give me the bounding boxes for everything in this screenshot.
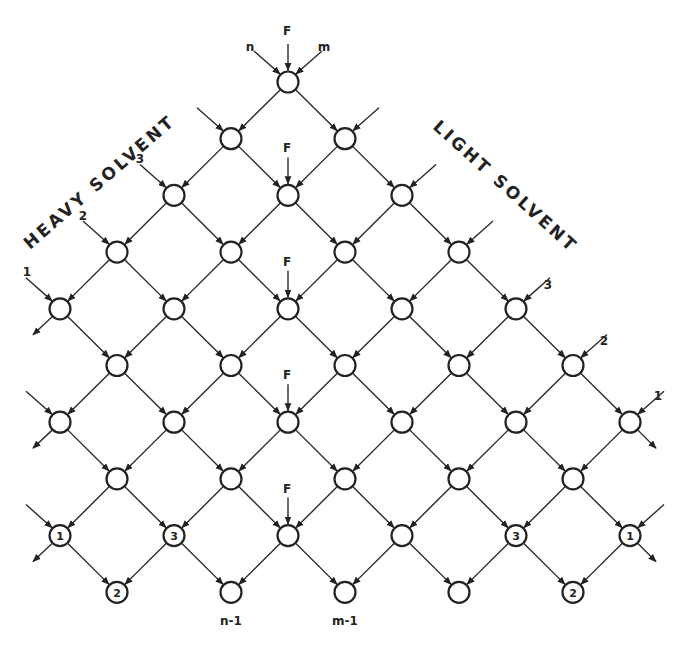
feed-label: F <box>283 368 291 382</box>
stage-node <box>392 525 413 546</box>
heavy-solvent-inlet-arrow <box>26 505 52 528</box>
stage-number-label: 2 <box>569 587 577 600</box>
stream-arrow <box>239 544 280 585</box>
stream-arrow <box>296 203 337 244</box>
stream-arrow <box>68 260 109 301</box>
stream-arrow <box>353 487 394 528</box>
stage-node <box>221 242 242 263</box>
light-solvent-inlet-arrow <box>638 505 664 528</box>
stage-node <box>221 582 242 603</box>
stage-node <box>221 128 242 149</box>
stream-arrow <box>125 203 166 244</box>
stage-number-label: 2 <box>113 587 121 600</box>
stream-arrow <box>239 430 280 471</box>
stage-node <box>278 298 299 319</box>
stream-arrow <box>296 373 337 414</box>
stream-arrow <box>467 430 508 471</box>
left-feed-2-label: 2 <box>79 209 87 223</box>
stream-arrow <box>467 317 508 358</box>
stage-number-label: 3 <box>512 530 520 543</box>
stream-arrow <box>182 147 223 188</box>
bottom-m-minus-1-label: m-1 <box>332 614 358 628</box>
stream-arrow <box>524 487 565 528</box>
stream-arrow <box>524 317 565 358</box>
stream-arrow <box>467 260 508 301</box>
stage-node <box>506 412 527 433</box>
light-solvent-inlet-arrow <box>467 221 493 244</box>
heavy-solvent-inlet-arrow <box>197 108 223 131</box>
stage-node <box>449 582 470 603</box>
stream-arrow <box>182 203 223 244</box>
stream-arrow <box>68 373 109 414</box>
stream-arrow <box>410 317 451 358</box>
stream-arrow <box>581 487 622 528</box>
stream-arrow <box>125 260 166 301</box>
stage-node <box>449 242 470 263</box>
stage-node <box>278 185 299 206</box>
stream-arrow <box>182 544 223 585</box>
stage-node <box>278 72 299 93</box>
stream-arrow <box>239 373 280 414</box>
stream-arrow <box>296 90 337 131</box>
heavy-solvent-inlet-arrow <box>254 51 280 74</box>
feed-label: F <box>283 482 291 496</box>
labels: HEAVY SOLVENT LIGHT SOLVENT F n m n-1 m-… <box>20 24 663 628</box>
bottom-n-minus-1-label: n-1 <box>220 614 242 628</box>
stream-arrow <box>524 430 565 471</box>
stream-arrow <box>68 487 109 528</box>
stream-arrow <box>125 430 166 471</box>
heavy-solvent-outlet-arrow <box>33 430 52 448</box>
stream-arrow <box>353 373 394 414</box>
feed-label: F <box>283 141 291 155</box>
heavy-solvent-label: HEAVY SOLVENT <box>20 111 180 253</box>
heavy-solvent-outlet-arrow <box>33 544 52 562</box>
stream-arrow <box>239 260 280 301</box>
left-feed-1-label: 1 <box>23 265 31 279</box>
stage-node <box>392 298 413 319</box>
stream-arrow <box>410 203 451 244</box>
stage-node <box>278 525 299 546</box>
stream-arrow <box>524 544 565 585</box>
stream-arrow <box>182 373 223 414</box>
heavy-solvent-outlet-arrow <box>33 317 52 335</box>
stream-arrow <box>467 544 508 585</box>
stage-node <box>449 355 470 376</box>
stream-arrow <box>581 373 622 414</box>
stage-node <box>221 468 242 489</box>
light-solvent-inlet-arrow <box>296 51 322 74</box>
stage-number-label: 3 <box>170 530 178 543</box>
stream-arrow <box>353 430 394 471</box>
stream-arrow <box>296 147 337 188</box>
stream-arrow <box>353 203 394 244</box>
stream-arrow <box>125 317 166 358</box>
stage-node <box>392 185 413 206</box>
stage-node <box>164 412 185 433</box>
stage-node <box>107 468 128 489</box>
feed-label: F <box>283 255 291 269</box>
stream-arrow <box>68 544 109 585</box>
stream-arrow <box>125 544 166 585</box>
stream-arrow <box>239 317 280 358</box>
stage-node <box>392 412 413 433</box>
light-solvent-label: LIGHT SOLVENT <box>429 116 582 256</box>
stream-arrow <box>581 430 622 471</box>
stream-arrow <box>125 487 166 528</box>
stage-node <box>506 298 527 319</box>
stream-arrow <box>68 430 109 471</box>
stream-arrow <box>125 373 166 414</box>
stream-arrow <box>239 487 280 528</box>
stream-arrow <box>182 430 223 471</box>
stage-node <box>449 468 470 489</box>
stream-arrow <box>296 487 337 528</box>
stage-node <box>563 355 584 376</box>
left-feed-3-label: 3 <box>136 152 144 166</box>
stream-arrow <box>410 544 451 585</box>
light-solvent-outlet-arrow <box>638 544 656 562</box>
stage-node <box>107 242 128 263</box>
stage-node <box>278 412 299 433</box>
stream-arrow <box>467 487 508 528</box>
stage-number-label: 1 <box>626 530 634 543</box>
stream-arrow <box>410 487 451 528</box>
stream-arrow <box>239 147 280 188</box>
stage-node <box>335 128 356 149</box>
